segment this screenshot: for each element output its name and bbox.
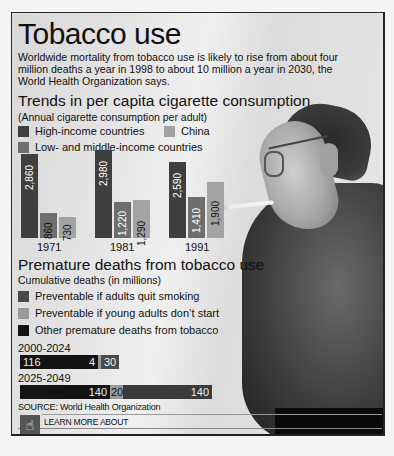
legend-dont-start: Preventable if young adults don’t start xyxy=(18,307,219,319)
infographic-frame: Tobacco use Worldwide mortality from tob… xyxy=(11,12,385,436)
pointing-hand-icon[interactable]: ☝ xyxy=(20,415,40,435)
credit-text: Research/JUTTA xyxy=(226,434,283,436)
segment-quit: 140 xyxy=(123,385,212,399)
deaths-bar-2025-2049: 140 20 140 xyxy=(20,385,212,399)
year-label-1991: 1991 xyxy=(185,241,209,253)
deaths-heading: Premature deaths from tobacco use xyxy=(18,256,264,274)
bar-1981-china: 1,290 xyxy=(133,200,150,238)
segment-other: 140 xyxy=(20,385,110,399)
learn-more-link[interactable]: LEARN MORE ABOUT xyxy=(44,417,128,427)
legend-high-income: High-income countries xyxy=(18,125,144,137)
year-label-1971: 1971 xyxy=(37,241,61,253)
bar-1971-china: 730 xyxy=(59,217,76,238)
deaths-subheading: Cumulative deaths (in millions) xyxy=(18,274,161,286)
year-label-1981: 1981 xyxy=(110,241,134,253)
period-label-2025-2049: 2025-2049 xyxy=(18,372,71,384)
intro-text: Worldwide mortality from tobacco use is … xyxy=(18,51,348,87)
legend-swatch xyxy=(18,308,29,319)
bar-1971-lowmid: 860 xyxy=(40,213,57,238)
bar-1991-high: 2,590 xyxy=(169,162,186,238)
bar-1981-high: 2,980 xyxy=(95,150,112,238)
consumption-subheading: (Annual cigarette consumption per adult) xyxy=(18,111,207,123)
page-title: Tobacco use xyxy=(18,17,181,51)
bar-1971-high: 2,860 xyxy=(21,154,38,238)
bar-1991-lowmid: 1,410 xyxy=(188,197,205,238)
period-label-2000-2024: 2000-2024 xyxy=(18,342,71,354)
bar-1981-lowmid: 1,220 xyxy=(114,202,131,238)
legend-swatch xyxy=(18,126,29,137)
deaths-bar-2000-2024: 116 4 30 xyxy=(20,355,119,369)
date-stamp: 1/28/99 xyxy=(12,434,37,436)
legend-swatch xyxy=(18,142,29,153)
consumption-heading: Trends in per capita cigarette consumpti… xyxy=(18,92,310,110)
legend-swatch xyxy=(164,126,175,137)
legend-other-deaths: Other premature deaths from tobacco xyxy=(18,324,218,336)
consumption-bar-chart: 2,860 860 730 2,980 1,220 1,290 2,590 1,… xyxy=(20,153,240,238)
source-note: SOURCE: World Health Organization xyxy=(18,402,160,412)
legend-china: China xyxy=(164,125,210,137)
legend-swatch xyxy=(18,291,29,302)
segment-quit: 30 xyxy=(101,355,119,369)
bar-1991-china: 1,900 xyxy=(207,182,224,238)
legend-swatch xyxy=(18,325,29,336)
legend-quit-smoking: Preventable if adults quit smoking xyxy=(18,290,199,302)
segment-dont-start: 20 xyxy=(110,385,123,399)
segment-other: 116 4 xyxy=(20,355,98,369)
